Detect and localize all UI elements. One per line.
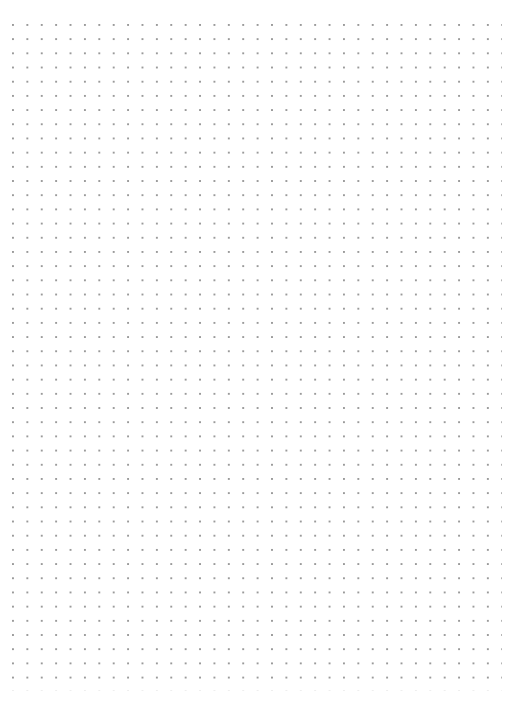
dot-grid xyxy=(12,24,502,691)
dot-grid-page xyxy=(0,0,506,713)
